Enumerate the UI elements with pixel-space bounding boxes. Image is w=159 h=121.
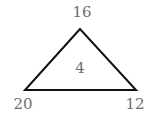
vertex-label-bottom-right: 12 xyxy=(125,97,144,112)
center-label: 4 xyxy=(75,61,85,76)
vertex-label-bottom-left: 20 xyxy=(13,97,32,112)
vertex-label-top: 16 xyxy=(72,5,91,20)
